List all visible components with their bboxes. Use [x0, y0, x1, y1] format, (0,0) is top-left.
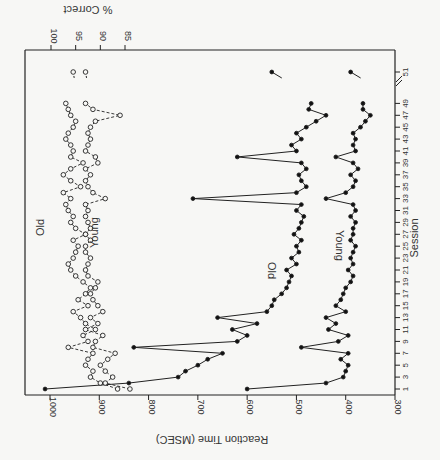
open-marker [71, 70, 76, 75]
filled-marker [354, 209, 358, 213]
filled-marker [255, 322, 259, 326]
open-marker [91, 190, 96, 195]
open-marker [64, 202, 69, 207]
open-marker [66, 345, 71, 350]
rt-tick-label: 500 [294, 399, 304, 414]
filled-marker [354, 149, 358, 153]
open-marker [118, 113, 123, 118]
open-marker [76, 297, 81, 302]
open-marker [93, 286, 98, 291]
filled-marker [270, 304, 274, 308]
session-tick-label: 35 [401, 182, 410, 191]
open-marker [83, 292, 88, 297]
filled-marker [351, 274, 355, 278]
filled-marker [351, 232, 355, 236]
open-marker [96, 161, 101, 166]
open-marker [103, 369, 108, 374]
filled-marker [295, 149, 299, 153]
open-marker [68, 155, 73, 160]
rt-tick-label: 400 [344, 399, 354, 414]
filled-marker [346, 363, 350, 367]
filled-marker [354, 137, 358, 141]
filled-marker [43, 387, 47, 391]
session-tick-label: 21 [401, 265, 410, 274]
open-marker [76, 244, 81, 249]
open-marker [93, 339, 98, 344]
filled-marker [285, 286, 289, 290]
open-marker [96, 303, 101, 308]
open-marker [115, 387, 120, 392]
open-marker [83, 101, 88, 106]
filled-marker [290, 256, 294, 260]
label-old-rt: Old [266, 262, 278, 279]
filled-marker [341, 292, 345, 296]
filled-marker [351, 250, 355, 254]
filled-marker [351, 131, 355, 135]
open-marker [68, 178, 73, 183]
filled-marker [349, 238, 353, 242]
open-marker [61, 173, 66, 178]
open-marker [61, 190, 66, 195]
session-tick-label: 13 [401, 313, 410, 322]
session-tick-label: 39 [401, 158, 410, 167]
filled-marker [245, 387, 249, 391]
filled-marker [290, 143, 294, 147]
filled-marker [344, 369, 348, 373]
open-marker [66, 131, 71, 136]
open-marker [113, 351, 118, 356]
filled-marker [327, 328, 331, 332]
open-marker [83, 327, 88, 332]
filled-marker [272, 298, 276, 302]
open-marker [91, 351, 96, 356]
filled-marker [349, 173, 353, 177]
filled-marker [304, 167, 308, 171]
open-marker [101, 309, 106, 314]
open-marker [73, 250, 78, 255]
filled-marker [270, 70, 274, 74]
filled-marker [221, 351, 225, 355]
open-marker [68, 220, 73, 225]
session-tick-label: 5 [401, 362, 410, 367]
session-tick-label: 33 [401, 194, 410, 203]
open-marker [86, 208, 91, 213]
filled-marker [344, 286, 348, 290]
session-tick-label: 51 [401, 67, 410, 76]
open-marker [88, 375, 93, 380]
filled-marker [349, 215, 353, 219]
filled-marker [127, 381, 131, 385]
pct-tick-label: 95 [74, 31, 84, 41]
open-marker [71, 125, 76, 130]
open-marker [98, 363, 103, 368]
filled-marker [351, 185, 355, 189]
session-tick-label: 49 [401, 98, 410, 107]
open-marker [105, 357, 110, 362]
open-marker [81, 333, 86, 338]
open-marker [66, 262, 71, 267]
filled-marker [314, 119, 318, 123]
session-tick-label: 31 [401, 206, 410, 215]
filled-marker [344, 310, 348, 314]
filled-marker [364, 119, 368, 123]
filled-marker [368, 113, 372, 117]
filled-marker [339, 357, 343, 361]
filled-marker [297, 226, 301, 230]
filled-marker [307, 107, 311, 111]
filled-marker [336, 340, 340, 344]
open-marker [88, 125, 93, 130]
open-marker [66, 208, 71, 213]
open-marker [88, 256, 93, 261]
filled-marker [295, 131, 299, 135]
filled-marker [235, 340, 239, 344]
filled-marker [295, 262, 299, 266]
open-marker [73, 119, 78, 124]
filled-marker [295, 191, 299, 195]
open-marker [78, 184, 83, 189]
pct-axis-title: % Correct [64, 4, 113, 16]
open-marker [81, 161, 86, 166]
filled-marker [285, 268, 289, 272]
open-marker [64, 137, 69, 142]
open-marker [88, 286, 93, 291]
filled-marker [354, 244, 358, 248]
session-tick-label: 11 [401, 325, 410, 334]
filled-marker [297, 173, 301, 177]
